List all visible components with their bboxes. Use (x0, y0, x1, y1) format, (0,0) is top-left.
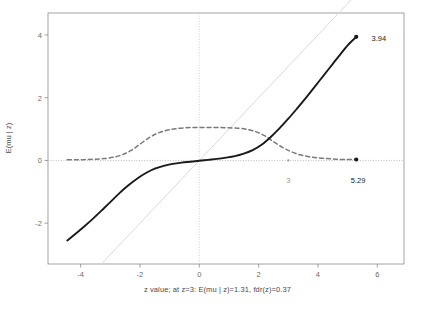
x-tick-label: -2 (137, 270, 144, 279)
annotation-max-value: 3.94 (371, 34, 386, 43)
series-e-mu-z (67, 37, 356, 241)
y-tick-label: 2 (26, 93, 42, 102)
y-tick-label: -2 (26, 219, 42, 228)
z-three-marker (287, 159, 289, 161)
chart-figure: -4 -2 0 2 4 6 -2 0 2 4 3.94 5.29 3 z val… (0, 0, 435, 310)
y-tick-label: 0 (26, 156, 42, 165)
curve-endpoint-upper (354, 35, 358, 39)
curve-endpoint-lower (354, 157, 358, 161)
annotation-max-z: 5.29 (351, 176, 366, 185)
plot-canvas (0, 0, 435, 310)
annotation-z-three: 3 (286, 176, 290, 185)
x-axis-label: z value; at z=3: E(mu | z)=1.31, fdr(z)=… (0, 285, 435, 294)
series-identity-reference-line (101, 0, 365, 264)
x-tick-label: 6 (375, 270, 379, 279)
x-tick-label: -4 (77, 270, 84, 279)
plot-box (48, 13, 404, 264)
x-tick-label: 2 (257, 270, 261, 279)
y-axis-label: E(mu | z) (4, 123, 13, 153)
x-tick-label: 4 (316, 270, 320, 279)
series-fdr-z (67, 127, 356, 159)
x-tick-label: 0 (197, 270, 201, 279)
y-tick-label: 4 (26, 30, 42, 39)
